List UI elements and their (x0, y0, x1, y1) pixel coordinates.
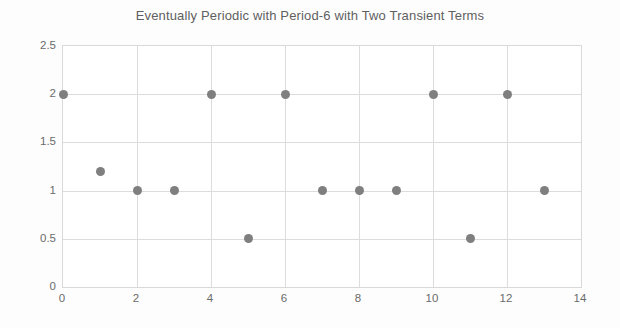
data-point (59, 90, 68, 99)
x-axis-tick-label: 10 (417, 292, 447, 304)
gridline-horizontal (63, 142, 581, 143)
gridline-vertical (433, 46, 434, 287)
x-axis-tick-label: 0 (47, 292, 77, 304)
gridline-vertical (285, 46, 286, 287)
gridline-vertical (507, 46, 508, 287)
data-point (355, 186, 364, 195)
data-point (133, 186, 142, 195)
data-point (244, 234, 253, 243)
gridline-vertical (359, 46, 360, 287)
data-point (503, 90, 512, 99)
chart-title: Eventually Periodic with Period-6 with T… (0, 8, 620, 23)
gridline-vertical (137, 46, 138, 287)
y-axis-tick-label: 0.5 (16, 232, 56, 244)
plot-area (62, 45, 582, 288)
x-axis-tick-label: 2 (121, 292, 151, 304)
x-axis-tick-label: 6 (269, 292, 299, 304)
chart-figure: Eventually Periodic with Period-6 with T… (0, 0, 620, 328)
x-axis-tick-label: 12 (491, 292, 521, 304)
data-point (318, 186, 327, 195)
y-axis-tick-label: 2.5 (16, 39, 56, 51)
y-axis-tick-label: 1.5 (16, 135, 56, 147)
data-point (207, 90, 216, 99)
gridline-vertical (211, 46, 212, 287)
x-axis-tick-label: 8 (343, 292, 373, 304)
y-axis-tick-label: 1 (16, 184, 56, 196)
gridline-horizontal (63, 239, 581, 240)
y-axis-tick-label: 0 (16, 280, 56, 292)
data-point (540, 186, 549, 195)
x-axis-tick-label: 4 (195, 292, 225, 304)
data-point (392, 186, 401, 195)
data-point (466, 234, 475, 243)
y-axis-tick-labels: 00.511.522.5 (10, 45, 56, 288)
data-point (170, 186, 179, 195)
data-point (96, 167, 105, 176)
data-point (429, 90, 438, 99)
y-axis-tick-label: 2 (16, 87, 56, 99)
x-axis-tick-labels: 02468101214 (62, 292, 582, 312)
data-point (281, 90, 290, 99)
x-axis-tick-label: 14 (565, 292, 595, 304)
